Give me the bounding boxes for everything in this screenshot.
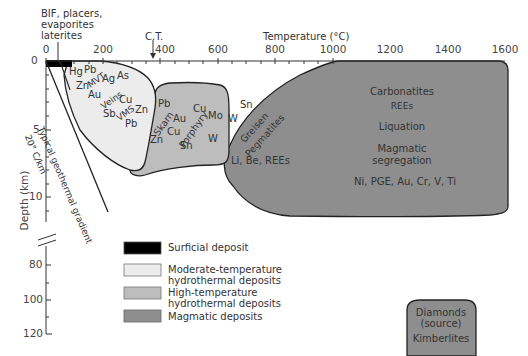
legend-text: hydrothermal deposits (168, 298, 281, 309)
x-tick-label: 1000 (320, 44, 347, 55)
legend-label-magmatic: Magmatic deposits (168, 311, 262, 322)
axis-break-icon (38, 234, 56, 246)
region-label: Au (88, 89, 101, 100)
region-label: Au (173, 113, 186, 124)
region-label: Ag (102, 73, 115, 84)
region-label: REEs (391, 101, 413, 112)
region-label: Pb (158, 98, 170, 109)
region-label: (source) (420, 318, 461, 329)
region-label: Kimberlites (413, 333, 470, 344)
region-label: Hg (69, 66, 83, 77)
x-tick-label: 1200 (377, 44, 404, 55)
x-axis-title: Temperature (°C) (263, 31, 349, 42)
region-label: Liquation (379, 121, 425, 132)
x-tick-label: 1600 (492, 44, 519, 55)
region-label: Pb (125, 118, 137, 129)
y-tick-label: 120 (23, 328, 43, 339)
legend-label-high: High-temperature hydrothermal deposits (168, 287, 281, 309)
x-tick-label: 1400 (435, 44, 462, 55)
legend-text: Moderate-temperature (168, 264, 282, 275)
surface-note-line: evaporites (41, 19, 102, 30)
y-tick-label: 0 (31, 55, 38, 66)
region-label: Li, Be, REEs (231, 155, 290, 166)
region-label: Zn (135, 104, 148, 115)
x-tick-label: 400 (155, 44, 175, 55)
legend-swatch-surficial (124, 242, 161, 254)
region-label: Magmatic (377, 143, 426, 154)
legend-swatch-magmatic (124, 310, 161, 322)
region-label: As (117, 70, 129, 81)
y-tick-label: 10 (29, 191, 42, 202)
legend-swatch-high (124, 287, 161, 299)
region-label: Cu (167, 126, 180, 137)
y-tick-label: 100 (23, 294, 43, 305)
x-tick-label: 800 (265, 44, 285, 55)
surface-note-line: laterites (41, 30, 102, 41)
region-label: segregation (372, 155, 431, 166)
y-axis-title: Depth (km) (19, 171, 30, 231)
region-label: W (228, 113, 238, 124)
region-label: Sn (240, 99, 253, 110)
x-tick-label: 0 (43, 44, 50, 55)
x-tick-label: 600 (208, 44, 228, 55)
legend-text: hydrothermal deposits (168, 275, 282, 286)
region-label: W (208, 133, 218, 144)
legend-label-surficial: Surficial deposit (168, 242, 248, 253)
legend-text: Magmatic deposits (168, 311, 262, 322)
region-label: Diamonds (416, 307, 466, 318)
region-label: Pb (84, 64, 96, 75)
legend-swatch-moderate (124, 264, 161, 276)
region-label: Cu (193, 103, 206, 114)
region-label: Sb (103, 108, 116, 119)
legend-text: Surficial deposit (168, 242, 248, 253)
legend-label-moderate: Moderate-temperature hydrothermal deposi… (168, 264, 282, 286)
region-label: Mo (208, 110, 223, 121)
surface-note: BIF, placers, evaporites laterites (41, 8, 102, 41)
y-tick-label: 80 (29, 259, 42, 270)
x-tick-label: 200 (93, 44, 113, 55)
region-label: Zn (150, 134, 163, 145)
region-label: Carbonatites (370, 86, 434, 97)
legend-text: High-temperature (168, 287, 281, 298)
ct-label: C.T. (145, 31, 163, 42)
surface-note-line: BIF, placers, (41, 8, 102, 19)
region-label: Sn (180, 140, 193, 151)
region-label: Ni, PGE, Au, Cr, V, Ti (354, 176, 456, 187)
y-axis-ticks (46, 75, 51, 317)
